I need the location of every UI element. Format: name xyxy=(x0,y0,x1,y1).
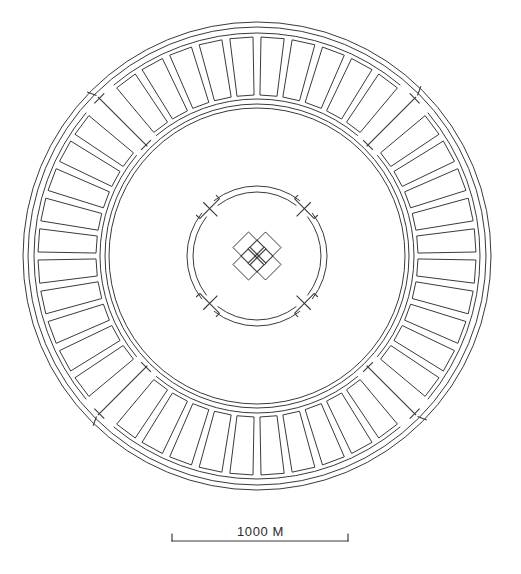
site-plan-canvas: 1000 M xyxy=(0,0,521,574)
central-core-cluster xyxy=(233,232,281,280)
outer-ring-circles xyxy=(23,22,491,490)
mid-plaza-circles xyxy=(105,104,409,408)
circular-site-plan-drawing xyxy=(0,0,521,574)
outer-ring-corner-brackets xyxy=(87,86,427,426)
scale-bar-label: 1000 M xyxy=(0,524,521,539)
inner-ring-corner-brackets xyxy=(196,195,318,317)
